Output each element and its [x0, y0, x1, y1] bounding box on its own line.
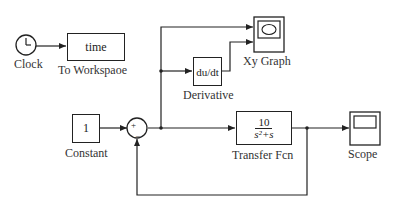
clock-block[interactable] [16, 35, 36, 55]
scope-label: Scope [348, 147, 377, 162]
branch-point [159, 69, 163, 73]
xy-graph-label: Xy Graph [243, 54, 291, 69]
constant-label: Constant [65, 146, 108, 161]
tf-denominator: s²+s [254, 129, 273, 140]
to-workspace-label: To Workspaoe [58, 63, 127, 78]
constant-block[interactable]: 1 [72, 114, 100, 143]
scope-icon [354, 116, 376, 128]
clock-label: Clock [14, 57, 43, 72]
branch-point [305, 126, 309, 130]
to-workspace-block[interactable]: time [67, 33, 125, 61]
transfer-fcn-label: Transfer Fcn [232, 148, 293, 163]
tf-numerator: 10 [255, 117, 272, 129]
sum-minus-sign: _ [135, 128, 141, 138]
branch-point [159, 126, 163, 130]
derivative-symbol: du/dt [196, 66, 219, 78]
derivative-label: Derivative [183, 88, 234, 103]
derivative-block[interactable]: du/dt [193, 57, 222, 86]
sum-block[interactable]: + _ [127, 118, 147, 138]
constant-value: 1 [83, 121, 89, 136]
transfer-fcn-block[interactable]: 10 s²+s [236, 111, 292, 145]
xy-graph-block[interactable] [254, 17, 284, 52]
scope-block[interactable] [350, 112, 380, 145]
to-workspace-variable: time [85, 40, 106, 55]
transfer-function-fraction: 10 s²+s [254, 117, 273, 140]
diagram-canvas: + _ [0, 0, 394, 211]
